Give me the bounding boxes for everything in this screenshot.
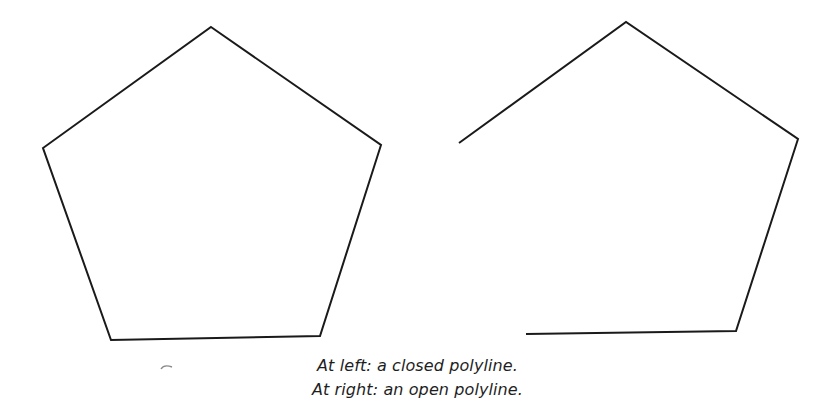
caption-left-text: a closed polyline. (372, 356, 518, 375)
closed-polyline-pentagon (43, 27, 381, 340)
polyline-figure (0, 0, 835, 417)
caption-right-text: an open polyline. (378, 380, 523, 399)
caption-right-lead: At right: (312, 380, 378, 399)
open-polyline-pentagon (459, 22, 798, 334)
caption-right: At right: an open polyline. (0, 380, 835, 399)
caption-left: At left: a closed polyline. (0, 356, 835, 375)
caption-left-lead: At left: (317, 356, 372, 375)
